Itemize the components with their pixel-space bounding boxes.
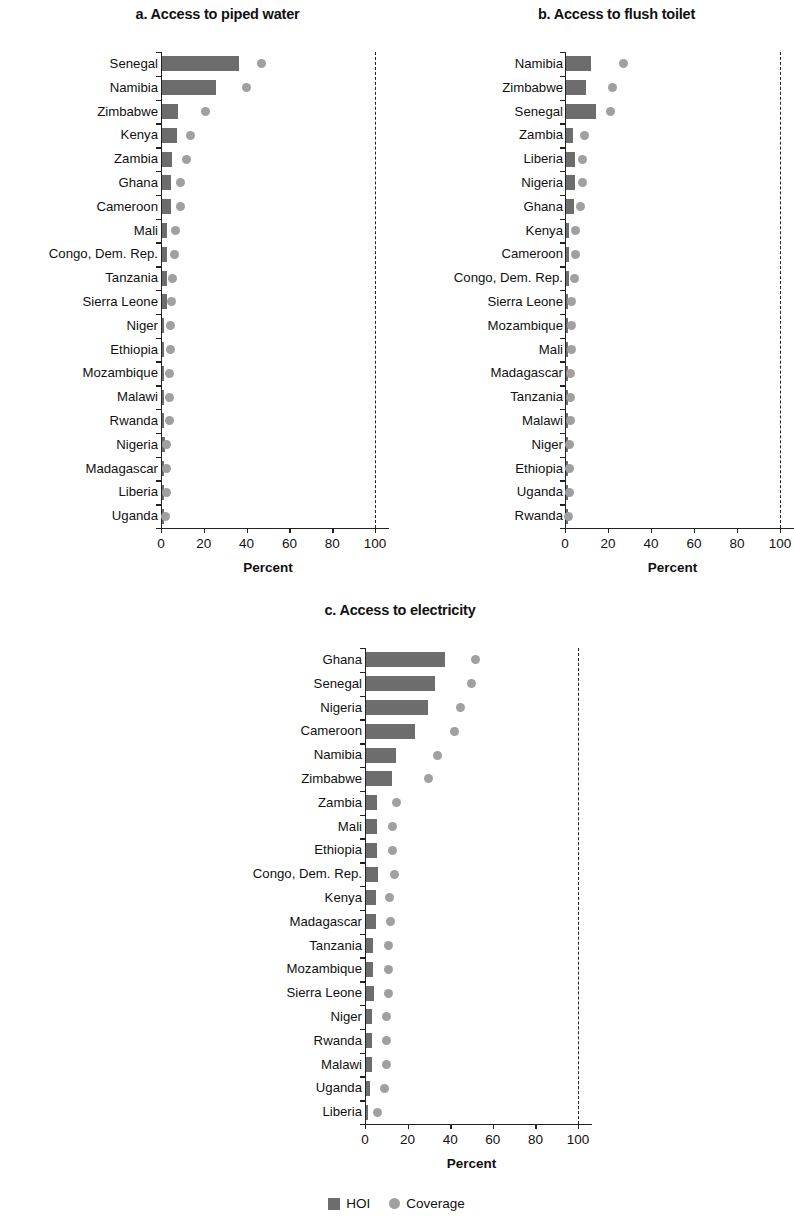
hoi-bar [366,938,372,953]
legend-item-hoi: HOI [328,1196,370,1211]
category-label: Nigeria [440,176,570,189]
category-label: Namibia [0,81,165,94]
hoi-bar [366,1009,371,1024]
category-label: Kenya [440,224,570,237]
category-label: Senegal [440,105,570,118]
panel-b-plot-area: NamibiaZimbabweSenegalZambiaLiberiaNiger… [440,42,793,552]
category-label: Madagascar [440,366,570,379]
coverage-dot [380,1084,389,1093]
category-label: Zambia [0,152,165,165]
y-axis-tick [560,385,565,386]
y-axis-tick [156,266,161,267]
coverage-dot [467,679,476,688]
category-label: Zambia [160,796,369,809]
y-axis-tick [360,886,365,887]
category-label: Nigeria [160,701,369,714]
coverage-dot [576,202,585,211]
category-label: Malawi [0,390,165,403]
coverage-dot [580,131,589,140]
hoi-bar [162,342,164,357]
y-axis-tick [560,433,565,434]
coverage-dot [388,846,397,855]
hoi-bar [566,199,574,214]
coverage-dot [450,727,459,736]
coverage-dot [161,512,170,521]
x-axis-tick-label: 20 [400,1132,415,1147]
y-axis-tick [156,361,161,362]
x-axis-line [565,528,794,529]
y-axis-tick [156,171,161,172]
coverage-dot-icon [389,1198,400,1209]
y-axis-tick [156,147,161,148]
x-axis-tick [578,1124,579,1129]
coverage-dot [382,1036,391,1045]
y-axis-tick [560,290,565,291]
coverage-dot [257,59,266,68]
x-axis-tick-label: 0 [361,1132,369,1147]
y-axis-tick [560,123,565,124]
y-axis-tick [156,123,161,124]
category-label: Niger [0,319,165,332]
x-axis-tick [332,528,333,533]
y-axis-tick [560,480,565,481]
hoi-bar [162,271,166,286]
x-axis-tick [694,528,695,533]
y-axis-tick [360,862,365,863]
category-label: Tanzania [160,939,369,952]
category-label: Ethiopia [0,343,165,356]
hoi-bar [366,819,377,834]
y-axis-tick [560,409,565,410]
hoi-bar [162,199,171,214]
category-label: Congo, Dem. Rep. [160,867,369,880]
category-label: Congo, Dem. Rep. [440,271,570,284]
panel-b-title: b. Access to flush toilet [440,6,793,22]
x-axis-tick [780,528,781,533]
coverage-dot [567,345,576,354]
hoi-bar [366,867,378,882]
hoi-bar [566,271,569,286]
category-label: Mozambique [440,319,570,332]
coverage-dot [162,488,171,497]
category-label: Cameroon [160,724,369,737]
x-axis-tick-label: 0 [561,536,569,551]
category-label: Zimbabwe [160,772,369,785]
hoi-bar [366,986,373,1001]
coverage-dot [384,965,393,974]
category-label: Sierra Leone [440,295,570,308]
category-label: Mozambique [160,962,369,975]
coverage-dot [456,703,465,712]
y-axis-tick [360,1005,365,1006]
x-axis-tick-label: 60 [282,536,297,551]
coverage-dot [565,440,574,449]
category-label: Cameroon [440,247,570,260]
coverage-dot [606,107,615,116]
reference-line-100 [375,52,376,528]
y-axis-tick [360,743,365,744]
y-axis-tick [360,791,365,792]
y-axis-tick [560,504,565,505]
x-axis-tick-label: 80 [729,536,744,551]
y-axis-tick [560,361,565,362]
hoi-bar [566,128,572,143]
coverage-dot [168,274,177,283]
hoi-bar [162,223,166,238]
y-axis-tick [360,672,365,673]
y-axis-tick [156,409,161,410]
hoi-bar [366,1033,371,1048]
hoi-bar [366,652,445,667]
hoi-bar [366,748,396,763]
y-axis-tick [360,981,365,982]
category-label: Nigeria [0,438,165,451]
x-axis-tick [204,528,205,533]
coverage-dot [186,131,195,140]
coverage-dot [242,83,251,92]
x-axis-tick-label: 60 [485,1132,500,1147]
hoi-bar [566,80,585,95]
x-axis-tick [450,1124,451,1129]
y-axis-tick [360,838,365,839]
category-label: Liberia [440,152,570,165]
x-axis-tick [651,528,652,533]
y-axis-tick [156,433,161,434]
coverage-dot [385,893,394,902]
